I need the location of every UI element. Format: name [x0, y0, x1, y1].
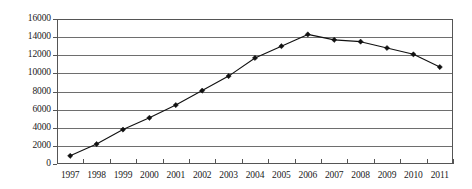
x-axis-tick-mark — [374, 159, 375, 164]
x-axis-tick-mark — [57, 159, 58, 164]
x-axis-tick-mark — [321, 159, 322, 164]
line-chart: 0200040006000800010000120001400016000 19… — [0, 0, 472, 189]
x-axis-tick-mark — [163, 159, 164, 164]
plot-area — [57, 19, 453, 164]
x-axis-tick-mark — [268, 159, 269, 164]
gridline — [58, 128, 452, 129]
y-axis-tick-label: 10000 — [3, 68, 51, 78]
y-axis-tick-mark — [53, 164, 57, 165]
y-axis-tick-label: 4000 — [3, 123, 51, 133]
y-axis-tick-label: 16000 — [3, 14, 51, 24]
x-axis-tick-mark — [189, 159, 190, 164]
x-axis-tick-mark — [215, 159, 216, 164]
x-axis-tick-label: 2011 — [420, 170, 460, 180]
gridline — [58, 146, 452, 147]
x-axis-tick-mark — [242, 159, 243, 164]
x-axis-tick-mark — [453, 159, 454, 164]
y-axis-tick-label: 8000 — [3, 87, 51, 97]
y-axis-tick-label: 0 — [3, 159, 51, 169]
gridline — [58, 92, 452, 93]
x-axis-tick-mark — [427, 159, 428, 164]
gridline — [58, 55, 452, 56]
x-axis-tick-mark — [400, 159, 401, 164]
x-axis-tick-mark — [136, 159, 137, 164]
gridline — [58, 37, 452, 38]
gridline — [58, 110, 452, 111]
y-axis-tick-label: 6000 — [3, 105, 51, 115]
gridline — [58, 73, 452, 74]
x-axis-tick-mark — [347, 159, 348, 164]
x-axis-tick-mark — [295, 159, 296, 164]
y-axis-tick-label: 14000 — [3, 32, 51, 42]
x-axis-tick-mark — [110, 159, 111, 164]
y-axis-tick-label: 12000 — [3, 50, 51, 60]
y-axis-tick-label: 2000 — [3, 141, 51, 151]
x-axis-tick-mark — [83, 159, 84, 164]
